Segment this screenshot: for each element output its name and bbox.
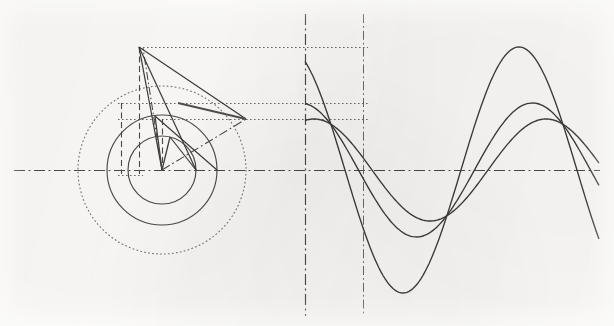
phasor-sine-construction-drawing bbox=[0, 0, 614, 326]
drop-line-group bbox=[118, 47, 163, 176]
chord-outer-lower bbox=[139, 47, 196, 170]
chord-group bbox=[129, 47, 246, 170]
phasor-middle bbox=[155, 116, 162, 170]
axis-group bbox=[14, 14, 600, 316]
phasor-axis-dashdot bbox=[143, 48, 162, 170]
projection-bar-upper bbox=[178, 103, 246, 119]
phasor-outer bbox=[139, 47, 162, 170]
phasor-inner bbox=[162, 137, 170, 170]
figure-canvas bbox=[0, 0, 614, 326]
chord-inner-left-tick bbox=[129, 47, 139, 131]
